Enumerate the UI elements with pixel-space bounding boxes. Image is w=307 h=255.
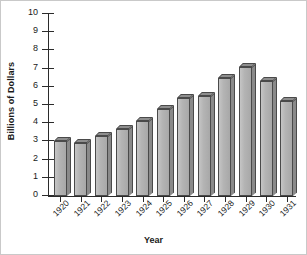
bar [177, 94, 194, 196]
bar-side-face [67, 138, 71, 196]
bar-side-face [190, 94, 194, 196]
y-tick-label: 2 [33, 153, 38, 164]
y-tick: 7 [42, 68, 54, 69]
bar [136, 117, 153, 196]
bar-front-face [74, 143, 87, 196]
bar-side-face [211, 92, 215, 196]
bar-front-face [177, 98, 190, 196]
bar-side-face [108, 132, 112, 196]
y-tick-label: 4 [33, 116, 38, 127]
bar [198, 92, 215, 196]
x-axis-tick-labels: 1920192119221923192419251926192719281929… [48, 198, 295, 234]
bar [157, 105, 174, 196]
y-axis-line [48, 14, 49, 197]
bar-chart-figure: Billions of Dollars 012345678910 1920192… [0, 0, 307, 255]
bar-front-face [136, 121, 149, 196]
y-tick: 5 [42, 104, 54, 105]
bar [95, 132, 112, 196]
bar-front-face [54, 141, 67, 196]
bar [280, 97, 297, 196]
bar-front-face [198, 96, 211, 196]
y-tick: 2 [42, 159, 54, 160]
bar-front-face [116, 129, 129, 196]
bar-front-face [95, 136, 108, 196]
y-tick: 6 [42, 86, 54, 87]
bar [260, 77, 277, 196]
bar-side-face [149, 118, 153, 196]
bar-side-face [170, 105, 174, 196]
y-tick-label: 0 [33, 189, 38, 200]
y-tick-label: 8 [33, 43, 38, 54]
bar-side-face [293, 98, 297, 196]
bar-front-face [218, 78, 231, 196]
y-tick: 10 [42, 13, 54, 14]
y-tick-label: 9 [33, 25, 38, 36]
bar-side-face [273, 78, 277, 196]
y-tick: 4 [42, 122, 54, 123]
bar-side-face [87, 140, 91, 196]
y-tick: 1 [42, 177, 54, 178]
y-tick-label: 3 [33, 134, 38, 145]
y-axis-title: Billions of Dollars [3, 1, 19, 201]
bar-front-face [280, 101, 293, 196]
bar-side-face [129, 125, 133, 196]
bar [116, 125, 133, 196]
y-tick: 8 [42, 49, 54, 50]
plot-area: 012345678910 [48, 14, 295, 196]
y-tick: 0 [42, 195, 54, 196]
bar [218, 74, 235, 196]
bar-side-face [252, 63, 256, 196]
y-axis-title-text: Billions of Dollars [6, 62, 16, 140]
x-axis-title: Year [1, 235, 306, 245]
bar-front-face [239, 67, 252, 196]
bar [239, 63, 256, 196]
bar [54, 137, 71, 196]
bar-side-face [231, 74, 235, 196]
bar-front-face [157, 109, 170, 196]
y-tick-label: 10 [28, 7, 38, 18]
bar-front-face [260, 81, 273, 196]
y-tick-label: 5 [33, 98, 38, 109]
y-tick: 9 [42, 31, 54, 32]
y-tick-label: 6 [33, 80, 38, 91]
bar [74, 139, 91, 196]
y-tick-label: 1 [33, 171, 38, 182]
y-tick-label: 7 [33, 62, 38, 73]
x-axis-line [48, 196, 296, 197]
